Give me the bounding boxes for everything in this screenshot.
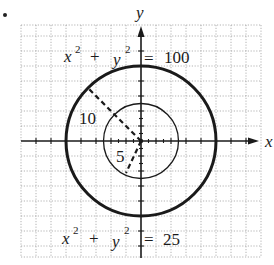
svg-text:25: 25 bbox=[163, 230, 180, 249]
origin-point bbox=[139, 139, 143, 143]
outer-equation-label: x 2 + y 2 = 100 bbox=[62, 43, 200, 69]
y-axis-label: y bbox=[134, 3, 144, 22]
svg-text:2: 2 bbox=[75, 43, 81, 55]
svg-text:+: + bbox=[90, 47, 100, 66]
coordinate-plane: y x x 2 + y 2 = 100 x 2 + y 2 = 25 10 5 bbox=[0, 0, 274, 265]
svg-text:y: y bbox=[110, 232, 120, 251]
x-axis-label: x bbox=[264, 132, 273, 151]
circle-graph-figure: y x x 2 + y 2 = 100 x 2 + y 2 = 25 10 5 bbox=[0, 0, 274, 265]
svg-text:2: 2 bbox=[73, 224, 79, 236]
inner-radius-label: 5 bbox=[116, 147, 125, 166]
svg-text:x: x bbox=[61, 229, 70, 248]
inner-equation-label: x 2 + y 2 = 25 bbox=[61, 224, 180, 251]
svg-text:x: x bbox=[63, 47, 72, 66]
x-axis-arrow-icon bbox=[248, 138, 259, 145]
svg-text:2: 2 bbox=[125, 43, 131, 55]
inner-radius-line bbox=[126, 141, 141, 173]
svg-text:+: + bbox=[89, 229, 99, 248]
svg-text:2: 2 bbox=[124, 224, 130, 236]
y-axis-arrow-icon bbox=[138, 26, 145, 37]
svg-text:=: = bbox=[144, 230, 154, 249]
svg-text:=: = bbox=[144, 49, 154, 68]
svg-text:y: y bbox=[111, 50, 121, 69]
list-bullet bbox=[3, 13, 7, 17]
svg-text:100: 100 bbox=[164, 48, 190, 67]
outer-radius-label: 10 bbox=[79, 109, 96, 128]
